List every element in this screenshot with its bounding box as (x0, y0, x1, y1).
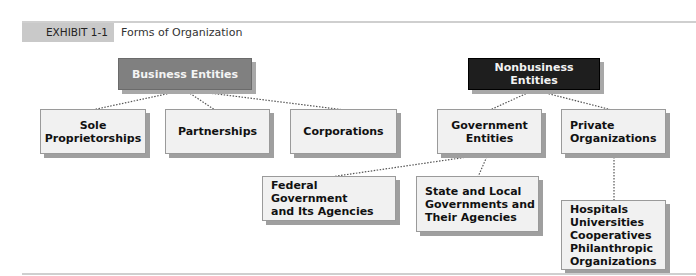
government-entities-node: Government Entities (437, 109, 542, 154)
nonbusiness-entities-node: Nonbusiness Entities (468, 58, 600, 90)
federal-government-node: Federal Government and Its Agencies (262, 176, 396, 221)
partnerships-node: Partnerships (165, 109, 270, 154)
sole-proprietorships-node: Sole Proprietorships (40, 109, 146, 154)
bottom-rule (22, 273, 696, 275)
state-local-government-node: State and Local Governments and Their Ag… (416, 176, 539, 232)
private-organizations-list-node: Hospitals Universities Cooperatives Phil… (561, 200, 666, 270)
business-entities-node: Business Entities (118, 58, 252, 90)
private-organizations-node: Private Organizations (561, 109, 666, 154)
corporations-node: Corporations (290, 109, 397, 154)
